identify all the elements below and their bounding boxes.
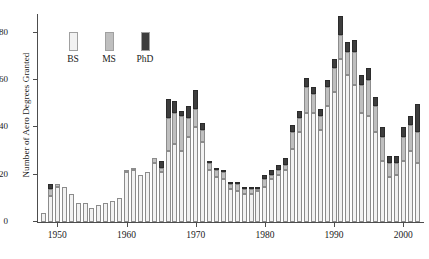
bar-segment-bs: [332, 92, 337, 222]
bar-segment-phd: [249, 187, 254, 189]
bar-segment-bs: [186, 137, 191, 222]
legend-label-bs: BS: [56, 54, 90, 64]
bar-segment-phd: [359, 75, 364, 84]
bar-segment-bs: [48, 196, 53, 222]
bar-segment-phd: [366, 68, 371, 80]
bar-segment-ms: [124, 170, 129, 172]
bar-segment-bs: [290, 149, 295, 222]
y-tick: [33, 32, 38, 33]
y-tick: [33, 79, 38, 80]
bar-segment-ms: [394, 163, 399, 175]
bar-segment-bs: [249, 194, 254, 222]
bar-segment-phd: [200, 123, 205, 130]
bar-segment-bs: [200, 142, 205, 222]
legend-label-phd: PhD: [128, 54, 162, 64]
bar-segment-bs: [131, 170, 136, 222]
legend-item-ms[interactable]: MS: [92, 32, 126, 64]
bar-segment-ms: [318, 116, 323, 130]
bar-segment-bs: [110, 201, 115, 222]
x-axis-line: [37, 222, 424, 223]
bar-segment-ms: [55, 184, 60, 186]
bar-segment-ms: [48, 189, 53, 196]
bar-segment-phd: [338, 16, 343, 35]
y-tick: [33, 126, 38, 127]
bar-segment-phd: [228, 182, 233, 184]
bar-segment-phd: [297, 111, 302, 118]
bar-segment-phd: [352, 40, 357, 52]
bar-segment-bs: [394, 175, 399, 222]
bar-segment-ms: [221, 172, 226, 179]
bar-segment-ms: [415, 132, 420, 163]
y-tick-label: 0: [0, 217, 8, 226]
bar-segment-bs: [214, 177, 219, 222]
bar-segment-phd: [172, 101, 177, 113]
bar-segment-ms: [352, 52, 357, 85]
bar-segment-bs: [62, 187, 67, 222]
bar-segment-bs: [152, 163, 157, 222]
bar-segment-bs: [297, 132, 302, 222]
bar-segment-phd: [373, 97, 378, 106]
bar-segment-ms: [131, 168, 136, 170]
bar-segment-ms: [152, 158, 157, 163]
bar-segment-ms: [332, 68, 337, 92]
y-tick-label: 80: [0, 28, 8, 37]
bar-segment-ms: [207, 163, 212, 170]
bar-segment-phd: [242, 187, 247, 189]
legend-swatch-bs: [69, 32, 78, 51]
bar-segment-phd: [394, 156, 399, 163]
bar-segment-ms: [166, 118, 171, 151]
bar-segment-bs: [207, 170, 212, 222]
bar-segment-phd: [166, 99, 171, 118]
x-tick: [196, 223, 197, 227]
x-tick-label: 1990: [314, 230, 354, 240]
x-tick-label: 1950: [37, 230, 77, 240]
bar-segment-bs: [255, 191, 260, 222]
bar-segment-ms: [297, 118, 302, 132]
x-tick: [57, 223, 58, 227]
bar-segment-ms: [249, 189, 254, 194]
bar-segment-phd: [255, 187, 260, 189]
bar-segment-bs: [89, 208, 94, 222]
bar-segment-bs: [283, 170, 288, 222]
bar-segment-bs: [401, 161, 406, 222]
x-tick-label: 1960: [107, 230, 147, 240]
bar-segment-bs: [304, 113, 309, 222]
bar-segment-ms: [235, 184, 240, 191]
bar-segment-bs: [269, 179, 274, 222]
bar-segment-bs: [408, 151, 413, 222]
bar-segment-ms: [186, 118, 191, 137]
bar-segment-ms: [290, 132, 295, 149]
x-tick-label: 2000: [383, 230, 423, 240]
bar-segment-phd: [311, 87, 316, 94]
bar-segment-phd: [408, 116, 413, 125]
bar-segment-phd: [325, 80, 330, 87]
bar-segment-bs: [172, 144, 177, 222]
bar-segment-ms: [359, 85, 364, 113]
bar-segment-bs: [235, 191, 240, 222]
bar-segment-bs: [83, 203, 88, 222]
bar-segment-phd: [387, 156, 392, 163]
bar-segment-bs: [124, 172, 129, 222]
x-tick: [403, 223, 404, 227]
bar-segment-bs: [242, 194, 247, 222]
bar-segment-bs: [193, 127, 198, 222]
bar-segment-bs: [117, 198, 122, 222]
legend-item-phd[interactable]: PhD: [128, 32, 162, 64]
legend-item-bs[interactable]: BS: [56, 32, 90, 64]
bar-segment-ms: [338, 35, 343, 59]
bar-segment-bs: [96, 205, 101, 222]
y-tick: [33, 174, 38, 175]
bar-segment-bs: [221, 179, 226, 222]
bar-segment-ms: [408, 125, 413, 151]
bar-segment-ms: [269, 175, 274, 180]
bar-segment-ms: [200, 130, 205, 142]
bar-segment-phd: [186, 106, 191, 118]
x-tick: [127, 223, 128, 227]
bar-segment-bs: [166, 151, 171, 222]
bar-segment-bs: [311, 113, 316, 222]
legend-swatch-ms: [105, 32, 114, 51]
bar-segment-ms: [172, 113, 177, 144]
y-tick-label: 60: [0, 75, 8, 84]
bar-segment-ms: [325, 87, 330, 106]
legend-label-ms: MS: [92, 54, 126, 64]
